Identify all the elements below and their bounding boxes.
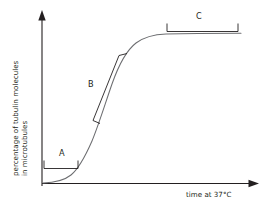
bracket-region-c [167, 24, 238, 32]
y-axis-label: percentage of tubulin molecules in micro… [11, 0, 41, 176]
x-axis-arrowhead [249, 180, 260, 187]
y-axis-label-line2: in microtubules [20, 0, 29, 176]
y-axis-label-line1: percentage of tubulin molecules [11, 0, 20, 176]
region-label-b: B [88, 80, 94, 89]
region-label-a: A [59, 149, 65, 158]
x-axis-label: time at 37°C [186, 190, 231, 199]
polymerization-curve [43, 33, 241, 183]
bracket-region-a [44, 161, 78, 169]
tubulin-polymerization-figure: percentage of tubulin molecules in micro… [0, 0, 270, 206]
region-label-c: C [196, 12, 202, 21]
